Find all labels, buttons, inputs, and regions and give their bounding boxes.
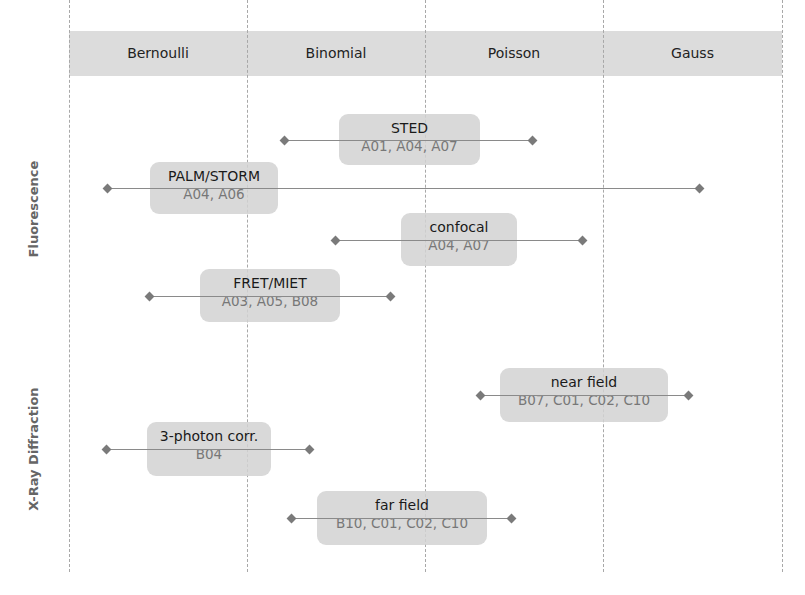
diamond-marker-icon (331, 236, 341, 246)
diamond-marker-icon (103, 184, 113, 194)
diamond-marker-icon (695, 184, 705, 194)
diamond-marker-icon (528, 136, 538, 146)
column-divider (782, 0, 783, 572)
range-line-far-field (291, 518, 511, 519)
method-title: far field (317, 496, 487, 514)
diamond-marker-icon (305, 445, 315, 455)
range-line-near-field (480, 395, 688, 396)
range-line-palm-storm (107, 188, 699, 189)
column-divider (69, 0, 70, 572)
diamond-marker-icon (386, 292, 396, 302)
method-codes: B07, C01, C02, C10 (500, 391, 668, 409)
range-line-3-photon-corr (106, 449, 309, 450)
method-codes: B04 (147, 445, 271, 463)
diamond-marker-icon (507, 514, 517, 524)
diamond-marker-icon (102, 445, 112, 455)
column-divider (603, 0, 604, 572)
range-line-confocal (335, 240, 582, 241)
column-label-gauss: Gauss (603, 31, 782, 76)
diamond-marker-icon (280, 136, 290, 146)
column-label-binomial: Binomial (247, 31, 425, 76)
method-title: 3-photon corr. (147, 427, 271, 445)
row-label-xray-diffraction: X-Ray Diffraction (26, 374, 44, 524)
method-codes: B10, C01, C02, C10 (317, 514, 487, 532)
diamond-marker-icon (578, 236, 588, 246)
method-codes: A03, A05, B08 (200, 292, 340, 310)
method-codes: A04, A07 (401, 236, 517, 254)
diamond-marker-icon (145, 292, 155, 302)
row-label-fluorescence: Fluorescence (26, 159, 44, 259)
column-label-bernoulli: Bernoulli (69, 31, 247, 76)
method-title: confocal (401, 218, 517, 236)
method-title: PALM/STORM (150, 167, 278, 185)
method-title: near field (500, 373, 668, 391)
diamond-marker-icon (476, 391, 486, 401)
method-title: FRET/MIET (200, 274, 340, 292)
diamond-marker-icon (684, 391, 694, 401)
diamond-marker-icon (287, 514, 297, 524)
range-line-sted (284, 140, 532, 141)
column-divider (425, 0, 426, 572)
column-label-poisson: Poisson (425, 31, 603, 76)
method-statistics-diagram: Bernoulli Binomial Poisson Gauss Fluores… (0, 0, 805, 595)
method-title: STED (339, 119, 480, 137)
range-line-fret-miet (149, 296, 390, 297)
